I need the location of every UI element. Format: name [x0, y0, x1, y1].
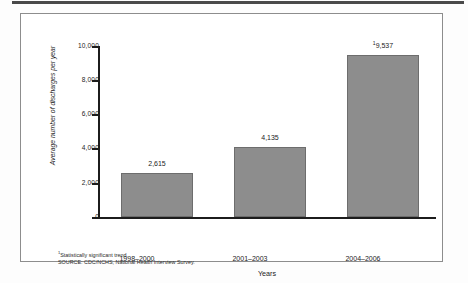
x-axis-line — [98, 217, 436, 219]
y-axis-title: Average number of discharges per year — [49, 31, 56, 181]
x-axis-title: Years — [99, 269, 435, 278]
y-tick-label: 6,000 — [55, 110, 99, 117]
footnote-significance-text: Statistically significant trend. — [60, 252, 128, 258]
bar-value-text-3: 9,537 — [376, 42, 394, 49]
footnote-significance: 1Statistically significant trend. — [58, 249, 195, 259]
bar-value-text-1: 2,615 — [148, 160, 166, 167]
chart-page: 10,000 8,000 6,000 4,000 2,000 0 Average… — [0, 0, 468, 283]
y-tick-label: 2,000 — [55, 179, 99, 186]
bar-value-text-2: 4,135 — [261, 134, 279, 141]
bar-value-label-2: 4,135 — [234, 134, 306, 141]
y-tick-label: 8,000 — [55, 76, 99, 83]
top-divider-rule — [12, 1, 464, 4]
plot-area: 2,615 4,135 19,537 1998–2000 2001–2003 2… — [99, 47, 435, 217]
bar-2001-2003[interactable] — [234, 147, 306, 217]
bar-2004-2006[interactable] — [347, 55, 419, 217]
y-tick-label: 10,000 — [55, 42, 99, 49]
y-tick-label: 4,000 — [55, 144, 99, 151]
chart-frame: 10,000 8,000 6,000 4,000 2,000 0 Average… — [20, 13, 443, 262]
footnotes-block: 1Statistically significant trend. SOURCE… — [58, 249, 195, 267]
x-tick-label-2001-2003: 2001–2003 — [195, 255, 305, 262]
y-axis-ticks: 10,000 8,000 6,000 4,000 2,000 0 — [21, 14, 99, 283]
footnote-source: SOURCE: CDC/NCHS, National Health Interv… — [58, 259, 195, 266]
bar-value-label-3: 19,537 — [347, 40, 419, 49]
bar-1998-2000[interactable] — [121, 173, 193, 218]
y-tick-label: 0 — [55, 213, 99, 220]
x-tick-label-2004-2006: 2004–2006 — [308, 255, 418, 262]
bar-value-label-1: 2,615 — [121, 160, 193, 167]
